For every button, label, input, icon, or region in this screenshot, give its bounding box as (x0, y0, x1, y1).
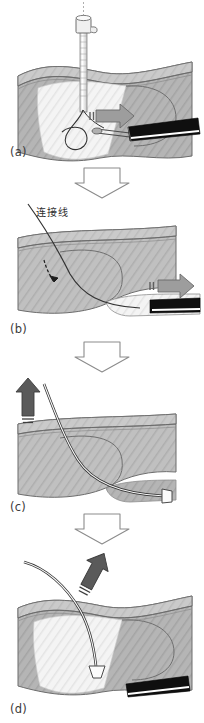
direction-arrow-up (16, 378, 40, 423)
connecting-line-annotation: 连接线 (36, 204, 69, 219)
needle-hub-top (76, 15, 91, 20)
connector-bc-icon-wrap (0, 340, 204, 374)
panel-d: (d) (0, 544, 204, 723)
cannula-stripe (152, 309, 200, 310)
hollow-down-arrow-icon (75, 342, 129, 372)
connector-cd (0, 512, 204, 546)
grasper-tip (92, 128, 102, 134)
panel-a-artwork (0, 0, 204, 168)
anchor-tip (162, 489, 172, 503)
connector-bc (0, 340, 204, 374)
procedure-figure: (a) (0, 0, 204, 723)
panel-a-label: (a) (10, 145, 27, 159)
panel-c-artwork (0, 372, 204, 520)
connector-ab-icon-wrap (0, 166, 204, 200)
panel-a: (a) (0, 0, 204, 168)
hollow-down-arrow-icon (75, 168, 129, 198)
panel-c: (c) (0, 372, 204, 520)
panel-b-label: (b) (10, 322, 27, 336)
motion-lines (22, 419, 34, 423)
panel-b: 连接线 (b) (0, 196, 204, 344)
panel-d-label: (d) (10, 702, 27, 716)
panel-b-artwork (0, 196, 204, 344)
direction-arrow-up-right (73, 548, 115, 599)
needle-hub-wing (91, 27, 97, 33)
connector-cd-icon-wrap (0, 512, 204, 546)
connector-ab (0, 166, 204, 200)
panel-d-artwork (0, 544, 204, 723)
hollow-down-arrow-icon (75, 514, 129, 544)
